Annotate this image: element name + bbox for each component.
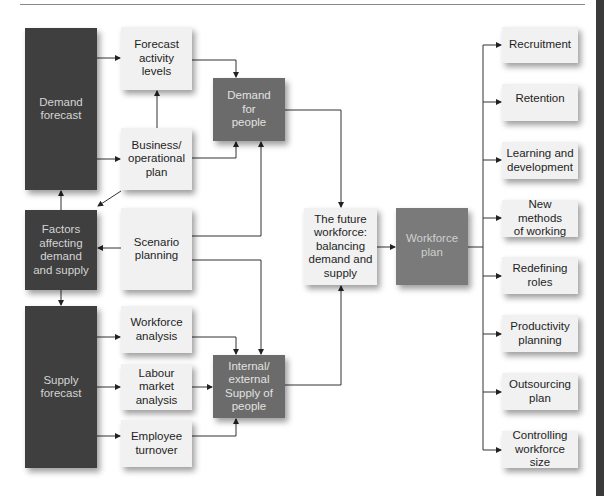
business-operational-plan-box: Business/ operational plan (121, 128, 192, 190)
outcome-retention: Retention (502, 84, 578, 121)
outcome-learning-development: Learning and development (502, 142, 578, 179)
employee-turnover-box: Employee turnover (121, 420, 192, 467)
outcome-new-methods-of-working: New methods of working (502, 200, 578, 237)
outcome-redefining-roles: Redefining roles (502, 257, 578, 294)
demand-for-people-box: Demand for people (213, 78, 285, 141)
workforce-plan-box: Workforce plan (396, 208, 468, 285)
forecast-activity-levels-box: Forecast activity levels (121, 27, 192, 90)
outcome-controlling-workforce-size: Controlling workforce size (502, 431, 578, 468)
scenario-planning-box: Scenario planning (121, 208, 192, 290)
internal-external-supply-box: Internal/ external Supply of people (213, 355, 285, 418)
outcome-recruitment: Recruitment (502, 27, 578, 63)
factors-affecting-demand-supply-box: Factors affecting demand and supply (25, 210, 97, 290)
demand-forecast-box: Demand forecast (25, 28, 97, 190)
supply-forecast-box: Supply forecast (25, 306, 97, 468)
outcome-outsourcing-plan: Outsourcing plan (502, 373, 578, 410)
labour-market-analysis-box: Labour market analysis (121, 364, 192, 410)
workforce-analysis-box: Workforce analysis (121, 306, 192, 353)
outcome-productivity-planning: Productivity planning (502, 315, 578, 352)
future-workforce-box: The future workforce: balancing demand a… (304, 208, 377, 285)
